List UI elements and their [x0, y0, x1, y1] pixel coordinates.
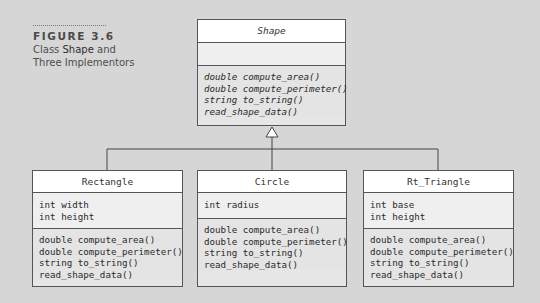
class-shape: Shape double compute_area() double compu… [197, 19, 346, 126]
generalization-arrow-icon [266, 127, 278, 137]
method: double compute_area() [204, 224, 346, 236]
method: string to_string() [204, 94, 345, 106]
attribute: int width [39, 199, 182, 211]
method: double compute_perimeter() [370, 246, 513, 258]
method: double compute_area() [39, 234, 182, 246]
class-methods: double compute_area() double compute_per… [198, 66, 345, 117]
method: double compute_perimeter() [204, 236, 346, 248]
class-attributes: int width int height [33, 193, 182, 229]
method: read_shape_data() [204, 106, 345, 118]
method: read_shape_data() [204, 259, 346, 271]
method: string to_string() [204, 247, 346, 259]
class-attributes: int base int height [364, 193, 513, 229]
class-name: Circle [198, 171, 346, 193]
attribute: int height [370, 211, 513, 223]
class-attributes: int radius [198, 193, 346, 219]
method: double compute_perimeter() [39, 246, 182, 258]
attribute: int radius [204, 199, 346, 211]
class-methods: double compute_area() double compute_per… [33, 229, 182, 280]
attribute: int base [370, 199, 513, 211]
method: read_shape_data() [39, 269, 182, 281]
method: string to_string() [39, 257, 182, 269]
method: string to_string() [370, 257, 513, 269]
method: double compute_area() [370, 234, 513, 246]
class-circle: Circle int radius double compute_area() … [197, 170, 347, 287]
method: double compute_perimeter() [204, 83, 345, 95]
class-name: Rectangle [33, 171, 182, 193]
class-methods: double compute_area() double compute_per… [364, 229, 513, 280]
class-name: Rt_Triangle [364, 171, 513, 193]
attribute: int height [39, 211, 182, 223]
method: double compute_area() [204, 71, 345, 83]
method: read_shape_data() [370, 269, 513, 281]
class-rt-triangle: Rt_Triangle int base int height double c… [363, 170, 514, 287]
class-rectangle: Rectangle int width int height double co… [32, 170, 183, 287]
class-attributes [198, 43, 345, 66]
class-methods: double compute_area() double compute_per… [198, 219, 346, 270]
class-name: Shape [198, 20, 345, 43]
